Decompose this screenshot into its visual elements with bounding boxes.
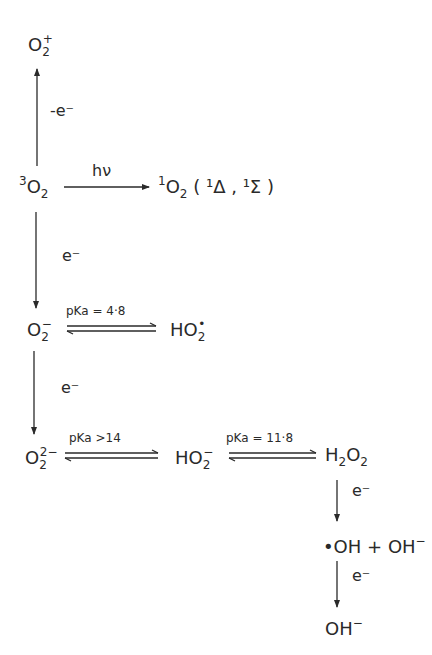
species-triplet-o2: 3O2 <box>19 175 48 200</box>
species-hydrogen-peroxide: H2O2 <box>325 446 368 468</box>
species-singlet-o2: 1O2 ( ¹Δ , ¹Σ ) <box>158 175 274 200</box>
species-hydroperoxide-anion: HO2− <box>175 446 213 471</box>
species-superoxide: O2− <box>27 318 52 343</box>
species-peroxide: O22− <box>25 446 58 471</box>
label-reduction-2: e⁻ <box>61 380 79 396</box>
species-hydroxide: OH− <box>325 617 363 638</box>
label-pka-1: pKa = 4·8 <box>66 305 125 317</box>
label-photon: hν <box>92 163 111 179</box>
label-reduction-4: e⁻ <box>352 568 370 584</box>
label-pka-3: pKa = 11·8 <box>226 432 293 444</box>
species-o2-cation: O2+ <box>28 33 53 58</box>
label-reduction-1: e⁻ <box>62 248 80 264</box>
label-pka-2: pKa >14 <box>69 432 121 444</box>
species-hydroperoxyl: HO2• <box>170 318 205 343</box>
species-hydroxyl-radical-plus-hydroxide: •OH + OH− <box>323 535 426 556</box>
label-reduction-3: e⁻ <box>352 483 370 499</box>
label-oxidation: -e⁻ <box>50 103 74 119</box>
